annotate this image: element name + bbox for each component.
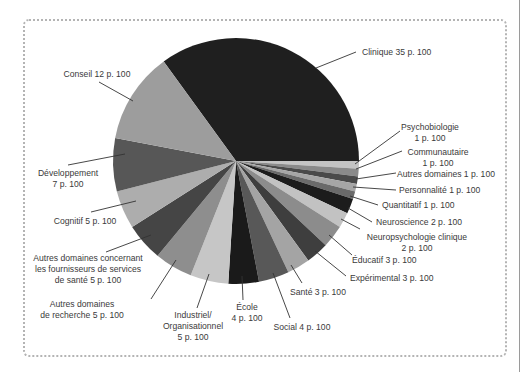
leader-line-neuroscience xyxy=(348,208,372,222)
leader-line-personnalite xyxy=(353,187,396,190)
label-educatif: Éducatif 3 p. 100 xyxy=(352,255,417,265)
leader-line-conseil xyxy=(99,82,133,101)
leader-line-psychobiologie xyxy=(355,131,400,164)
leader-line-autres-domaines-concernant-les-fournisseurs-de-services-de-sante xyxy=(106,235,151,252)
label-conseil: Conseil 12 p. 100 xyxy=(64,69,131,79)
label-autres-domaines: Autres domaines 1 p. 100 xyxy=(397,169,495,179)
label-sante: Santé 3 p. 100 xyxy=(290,287,346,297)
label-communautaire: Communautaire1 p. 100 xyxy=(407,147,468,168)
label-developpement: Développement7 p. 100 xyxy=(38,168,99,189)
label-neuropsychologie-clinique: Neuropsychologie clinique2 p. 100 xyxy=(367,232,468,253)
label-quantitatif: Quantitatif 1 p. 100 xyxy=(382,200,455,210)
label-personnalite: Personnalité 1 p. 100 xyxy=(399,185,480,195)
label-clinique: Clinique 35 p. 100 xyxy=(362,47,431,57)
label-experimental: Expérimental 3 p. 100 xyxy=(350,273,434,283)
label-cognitif: Cognitif 5 p. 100 xyxy=(54,216,117,226)
leader-line-social xyxy=(273,273,290,318)
label-psychobiologie: Psychobiologie1 p. 100 xyxy=(401,122,459,143)
pie-slices xyxy=(113,38,359,284)
leader-line-educatif xyxy=(329,235,352,255)
leader-line-clinique xyxy=(316,52,356,68)
leader-line-quantitatif xyxy=(350,196,378,205)
label-neuroscience: Neuroscience 2 p. 100 xyxy=(376,217,462,227)
leader-line-neuropsychologie-clinique xyxy=(341,219,360,229)
leader-line-communautaire xyxy=(356,151,402,169)
label-autres-domaines-concernant-les-fournisseurs-de-services-de-sante: Autres domaines concernantles fournisseu… xyxy=(33,253,143,285)
label-social: Social 4 p. 100 xyxy=(274,322,331,332)
leader-line-autres-domaines-de-recherche xyxy=(151,260,176,299)
leader-line-autres-domaines xyxy=(356,173,396,179)
pie-chart: Clinique 35 p. 100Psychobiologie1 p. 100… xyxy=(0,0,526,372)
leader-line-experimental xyxy=(315,251,346,276)
label-autres-domaines-de-recherche: Autres domainesde recherche 5 p. 100 xyxy=(40,299,124,320)
label-industriel-organisationnel: Industriel/Organisationnel5 p. 100 xyxy=(163,310,223,342)
label-ecole: École4 p. 100 xyxy=(231,302,262,323)
